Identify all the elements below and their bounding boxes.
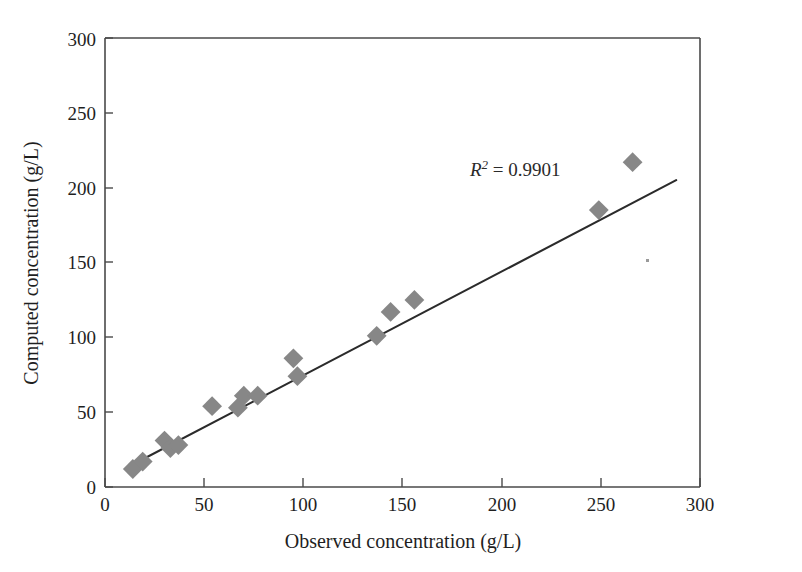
y-tick-label-150: 150 [68,252,97,273]
x-axis-tick-labels: 0 50 100 150 200 250 300 [100,494,714,515]
x-tick-label-300: 300 [686,494,715,515]
y-tick-label-50: 50 [77,402,96,423]
data-point [367,326,387,346]
x-axis-title: Observed concentration (g/L) [285,530,522,553]
y-tick-label-0: 0 [87,477,97,498]
data-point [623,152,643,172]
scatter-plot-svg: 0 50 100 150 200 250 300 0 50 100 150 20… [0,0,802,572]
y-axis-ticks [105,38,113,487]
x-tick-label-200: 200 [488,494,517,515]
y-axis-tick-labels: 0 50 100 150 200 250 300 [68,29,97,498]
data-point [381,302,401,322]
trendline [133,180,676,464]
x-tick-label-250: 250 [587,494,616,515]
data-point [405,290,425,310]
chart-figure: 0 50 100 150 200 250 300 0 50 100 150 20… [0,0,802,572]
x-tick-label-100: 100 [289,494,318,515]
y-axis-title: Computed concentration (g/L) [20,141,43,384]
y-tick-label-100: 100 [68,327,97,348]
r-squared-symbol: R [469,159,482,180]
x-tick-label-50: 50 [195,494,214,515]
x-tick-label-0: 0 [100,494,110,515]
y-tick-label-200: 200 [68,178,97,199]
data-point [284,348,304,368]
scan-speck [646,259,649,262]
y-tick-label-300: 300 [68,29,97,50]
r-squared-annotation: R2 = 0.9901 [469,157,561,180]
y-tick-label-250: 250 [68,103,97,124]
data-point [202,396,222,416]
svg-text:R2 = 0.9901: R2 = 0.9901 [469,157,561,180]
x-tick-label-150: 150 [388,494,417,515]
plot-frame [105,38,700,487]
x-axis-ticks [105,478,700,487]
r-squared-value: = 0.9901 [488,159,560,180]
